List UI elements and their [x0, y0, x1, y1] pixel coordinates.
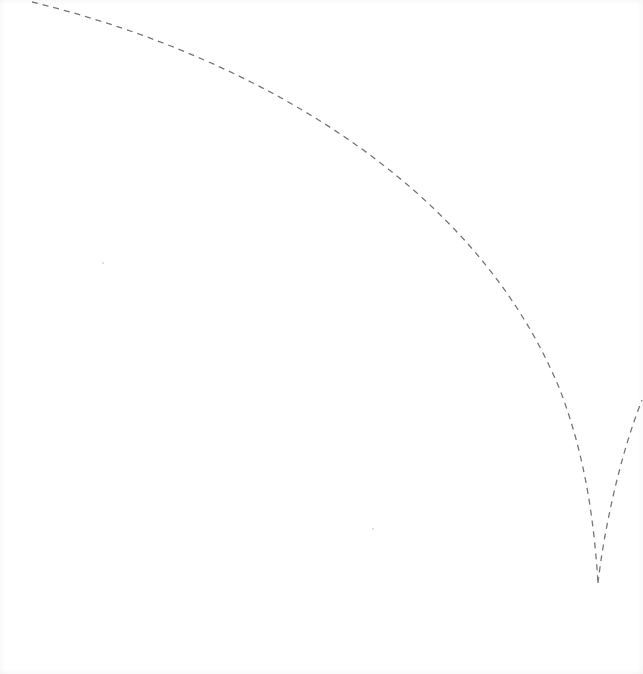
dashed-curve-drawing: [0, 0, 643, 674]
stray-mark: [372, 528, 374, 530]
drawing-canvas[interactable]: [0, 0, 643, 674]
stray-mark: [102, 262, 104, 264]
rising-arc-path: [598, 400, 642, 583]
main-arc-path: [32, 2, 598, 583]
